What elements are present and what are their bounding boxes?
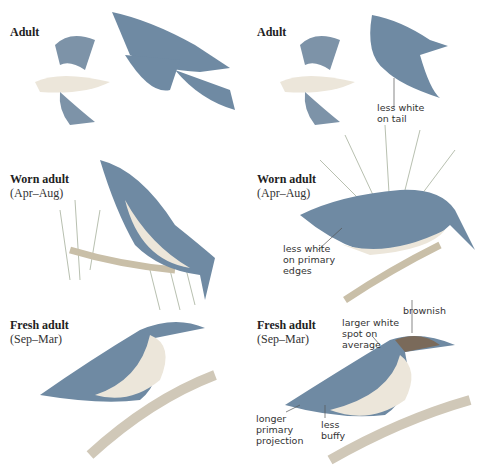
bird-right-flight-2	[370, 15, 448, 98]
note-brownish: brownish	[403, 305, 446, 316]
bird-right-flight-1	[280, 36, 355, 125]
label-right-fresh-season: (Sep–Mar)	[257, 332, 309, 347]
bird-right-fresh	[285, 336, 470, 460]
note-longer-primary: longer primary projection	[256, 413, 303, 446]
label-right-adult: Adult	[257, 25, 286, 40]
label-right-fresh: Fresh adult	[257, 318, 316, 333]
label-right-worn: Worn adult	[257, 172, 316, 187]
bird-left-flight-2	[112, 12, 235, 110]
label-left-fresh-season: (Sep–Mar)	[10, 332, 62, 347]
note-less-white-primary: less white on primary edges	[283, 243, 335, 276]
label-left-worn: Worn adult	[10, 172, 69, 187]
bird-left-fresh	[40, 322, 215, 455]
note-less-buffy: less buffy	[321, 419, 345, 441]
note-larger-white-spot: larger white spot on average	[342, 317, 399, 350]
bird-illustrations	[0, 0, 484, 471]
label-left-fresh: Fresh adult	[10, 318, 69, 333]
note-less-white-tail: less white on tail	[377, 102, 424, 124]
label-right-worn-season: (Apr–Aug)	[257, 186, 310, 201]
label-left-worn-season: (Apr–Aug)	[10, 186, 63, 201]
bird-left-flight-1	[35, 36, 110, 125]
label-left-adult: Adult	[10, 25, 39, 40]
bird-left-worn	[60, 160, 215, 310]
